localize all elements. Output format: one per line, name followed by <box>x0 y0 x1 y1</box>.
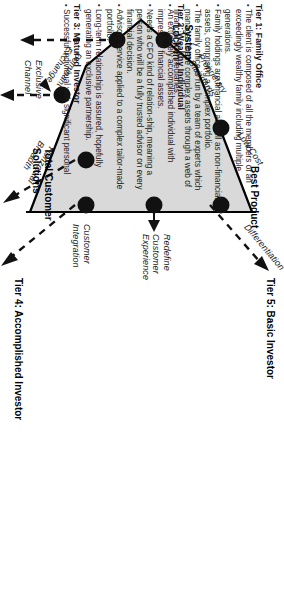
tier-2-text-block: Tier 2: Wealthy Individual An extremely … <box>78 4 186 200</box>
tier-3-bullets: Successful individual with significant p… <box>61 4 71 200</box>
list-item: Successful individual with significant p… <box>61 4 71 200</box>
list-item: The client is composed of all the member… <box>222 4 253 200</box>
tier-5-baseline-label: Tier 5: Basic Investor <box>265 278 276 379</box>
tier-3-text-block: Tier 3: Matured Investor Successful indi… <box>56 4 82 200</box>
diagram-canvas: System Lock-In Best Product Total Custom… <box>0 0 282 612</box>
list-item: Long-term relationship is assured, hopef… <box>83 4 103 200</box>
tier-2-bullets: An extremely accomplished individual wit… <box>83 4 175 200</box>
tier-4-baseline-label: Tier 4: Accomplished Investor <box>13 278 24 420</box>
label-customer-integration: Customer Integration <box>71 224 92 294</box>
list-item: Advisory service applied to a complex ta… <box>103 4 123 200</box>
tier-2-heading: Tier 2: Wealthy Individual <box>176 4 186 200</box>
tier-3-heading: Tier 3: Matured Investor <box>72 4 82 200</box>
label-redefine-customer-experience: Redefine Customer Experience <box>141 234 173 304</box>
tier-1-heading: Tier 1: Family Office <box>254 4 264 200</box>
list-item: Family holdings are financial as well as… <box>202 4 222 200</box>
list-item: Needs a CFO kind of relation-ship, meani… <box>124 4 155 200</box>
list-item: An extremely accomplished individual wit… <box>154 4 174 200</box>
